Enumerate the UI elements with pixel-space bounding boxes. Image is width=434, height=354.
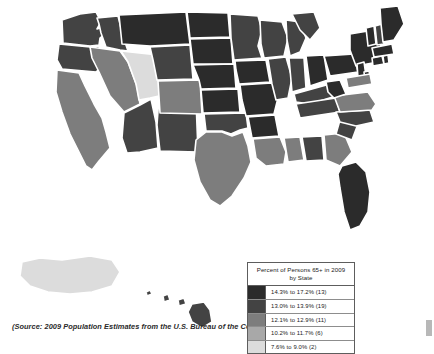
state-me: Maine xyxy=(380,6,404,42)
state-fl: Florida xyxy=(338,162,370,230)
state-hi: Hawaii xyxy=(178,298,186,306)
state-ok: Oklahoma xyxy=(204,113,248,134)
state-ia: Iowa xyxy=(235,60,270,84)
legend-title-line2: by State xyxy=(289,274,312,281)
legend-row: 13.0% to 13.9% (19) xyxy=(248,300,354,314)
state-ks: Kansas xyxy=(201,89,240,113)
state-al: Alabama xyxy=(302,136,324,161)
choropleth-figure: WashingtonOregonCaliforniaNevadaIdahoUta… xyxy=(0,0,434,354)
legend-label: 7.6% to 9.0% (2) xyxy=(266,341,354,354)
legend-label: 10.2% to 11.7% (6) xyxy=(266,327,354,340)
legend-row: 14.3% to 17.2% (13) xyxy=(248,286,354,300)
state-hi: Hawaii xyxy=(146,290,152,296)
legend-label: 13.0% to 13.9% (19) xyxy=(266,300,354,313)
legend-label: 14.3% to 17.2% (13) xyxy=(266,286,354,299)
state-sd: South Dakota xyxy=(190,38,233,64)
state-ne: Nebraska xyxy=(193,64,236,89)
state-vt: Vermont xyxy=(366,26,376,46)
state-nd: North Dakota xyxy=(187,12,230,38)
state-co: Colorado xyxy=(158,80,202,114)
state-ca: California xyxy=(56,70,110,170)
legend-title-line1: Percent of Persons 65+ in 2009 xyxy=(257,266,346,273)
state-wi: Wisconsin xyxy=(260,20,288,58)
state-ri: Rhode Island xyxy=(383,55,389,64)
state-in: Indiana xyxy=(289,58,306,92)
states-layer: WashingtonOregonCaliforniaNevadaIdahoUta… xyxy=(56,6,404,230)
scroll-artifact xyxy=(426,320,432,336)
state-wy: Wyoming xyxy=(150,45,193,80)
state-hi: Hawaii xyxy=(163,294,170,302)
legend-label: 12.1% to 12.9% (11) xyxy=(266,314,354,327)
legend-swatch xyxy=(248,286,266,299)
state-mn: Minnesota xyxy=(230,14,262,60)
legend-row: 12.1% to 12.9% (11) xyxy=(248,314,354,328)
state-mt: Montana xyxy=(119,12,190,46)
state-ar: Arkansas xyxy=(248,115,279,138)
state-ms: Mississippi xyxy=(284,137,304,162)
map-legend: Percent of Persons 65+ in 2009 by State … xyxy=(247,262,355,354)
legend-swatch xyxy=(248,314,266,327)
state-ak: Alaska xyxy=(20,256,120,294)
legend-row: 7.6% to 9.0% (2) xyxy=(248,341,354,354)
legend-rows: 14.3% to 17.2% (13)13.0% to 13.9% (19)12… xyxy=(248,286,354,353)
inset-layer: AlaskaHawaiiHawaiiHawaiiHawaii xyxy=(20,256,212,328)
legend-row: 10.2% to 11.7% (6) xyxy=(248,327,354,341)
us-state-map: WashingtonOregonCaliforniaNevadaIdahoUta… xyxy=(0,0,434,354)
state-md: Maryland xyxy=(346,74,372,88)
legend-swatch xyxy=(248,300,266,313)
state-tx: Texas xyxy=(194,132,251,206)
state-la: Louisiana xyxy=(253,137,286,166)
source-caption: (Source: 2009 Population Estimates from … xyxy=(12,322,270,331)
legend-swatch xyxy=(248,327,266,340)
legend-swatch xyxy=(248,341,266,354)
legend-title: Percent of Persons 65+ in 2009 by State xyxy=(248,263,354,286)
